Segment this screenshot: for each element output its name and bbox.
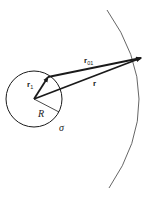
vector-r01 (48, 58, 141, 77)
label-r01: r01 (84, 56, 93, 66)
outer-arc (107, 10, 139, 188)
label-sigma: σ (59, 122, 65, 133)
label-r01-subscript: 01 (87, 60, 93, 66)
spherical-source-diagram: r1 r01 r R σ (0, 0, 159, 198)
label-r1-subscript: 1 (30, 84, 33, 90)
label-r: r (93, 79, 96, 88)
label-r1: r1 (27, 80, 33, 90)
label-radius: R (37, 108, 44, 119)
